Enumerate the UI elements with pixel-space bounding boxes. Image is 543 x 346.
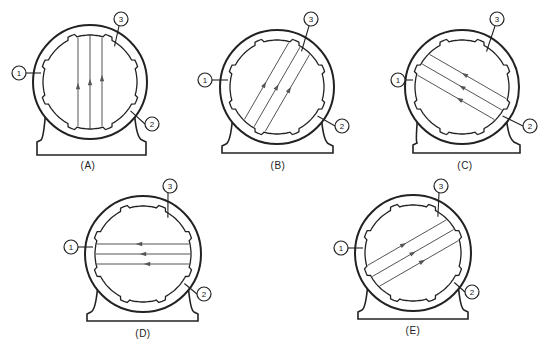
panel-caption: (E): [406, 325, 421, 336]
panel-caption: (D): [135, 328, 150, 339]
panel-caption: (A): [81, 160, 96, 171]
callout-number: 2: [340, 122, 345, 131]
panel-caption: (B): [271, 160, 286, 171]
callout-number: 1: [69, 243, 74, 252]
diagram-canvas: 123123123123123: [0, 0, 543, 346]
motor-panel-e: 123: [334, 179, 479, 319]
callout-number: 1: [17, 69, 22, 78]
callout-number: 2: [150, 120, 155, 129]
callout-number: 3: [309, 15, 314, 24]
callout-number: 3: [439, 182, 444, 191]
callout-number: 3: [168, 182, 173, 191]
motor-panel-b: 123: [198, 12, 349, 153]
callout-number: 1: [396, 76, 401, 85]
callout-number: 1: [339, 244, 344, 253]
callout-number: 1: [203, 76, 208, 85]
motor-panel-a: 123: [12, 12, 159, 155]
panel-caption: (C): [457, 160, 472, 171]
callout-number: 2: [528, 122, 533, 131]
callout-number: 3: [495, 15, 500, 24]
motor-panel-d: 123: [64, 179, 211, 321]
motor-panel-c: 123: [391, 12, 537, 153]
callout-number: 2: [202, 290, 207, 299]
callout-number: 2: [470, 288, 475, 297]
callout-number: 3: [119, 15, 124, 24]
